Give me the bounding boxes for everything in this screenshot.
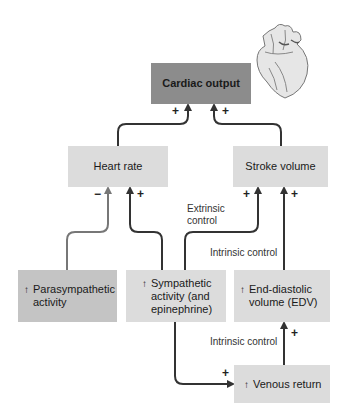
extrinsic-control-label: Extrinsic control [187,203,225,227]
sympathetic-line-2: activity (and [151,290,212,303]
parasympathetic-line-1: Parasympathetic [33,283,115,296]
sign-edv-plus: + [291,326,298,340]
sign-sv-right: + [291,187,298,201]
sign-hr-plus: + [137,187,144,201]
increase-arrow-icon: ↑ [24,283,29,296]
parasympathetic-line-2: activity [33,296,115,309]
intrinsic-control-upper-label: Intrinsic control [210,247,277,259]
arrow-symp-to-hr [130,190,162,270]
parasympathetic-box: ↑ Parasympathetic activity [18,270,117,322]
sympathetic-line-3: epinephrine) [151,303,212,316]
stroke-volume-label: Stroke volume [245,160,315,173]
stroke-volume-box: Stroke volume [233,146,328,187]
venous-return-box: ↑ Venous return [234,365,330,403]
sign-co-right: + [222,104,229,118]
intrinsic-control-lower-label: Intrinsic control [210,336,277,348]
arrow-parasym-to-hr [67,190,108,270]
sign-venous-plus: + [222,366,229,380]
increase-arrow-icon: ↑ [142,277,147,290]
heart-rate-box: Heart rate [68,146,168,187]
end-diastolic-volume-box: ↑ End-diastolic volume (EDV) [234,270,330,322]
sympathetic-line-1: Sympathetic [151,277,212,290]
increase-arrow-icon: ↑ [240,283,245,296]
increase-arrow-icon: ↑ [244,378,249,391]
heart-illustration-icon [245,22,315,102]
sympathetic-box: ↑ Sympathetic activity (and epinephrine) [126,270,226,322]
edv-line-2: volume (EDV) [249,296,317,309]
heart-rate-label: Heart rate [94,160,143,173]
sign-co-left: + [172,104,179,118]
venous-return-label: Venous return [253,378,322,391]
sign-sv-left: + [243,187,250,201]
extrinsic-line-1: Extrinsic [187,203,225,215]
edv-line-1: End-diastolic [249,283,317,296]
cardiac-output-box: Cardiac output [151,63,251,104]
cardiac-output-label: Cardiac output [162,77,240,90]
extrinsic-line-2: control [187,215,225,227]
sign-hr-minus: − [94,187,101,201]
